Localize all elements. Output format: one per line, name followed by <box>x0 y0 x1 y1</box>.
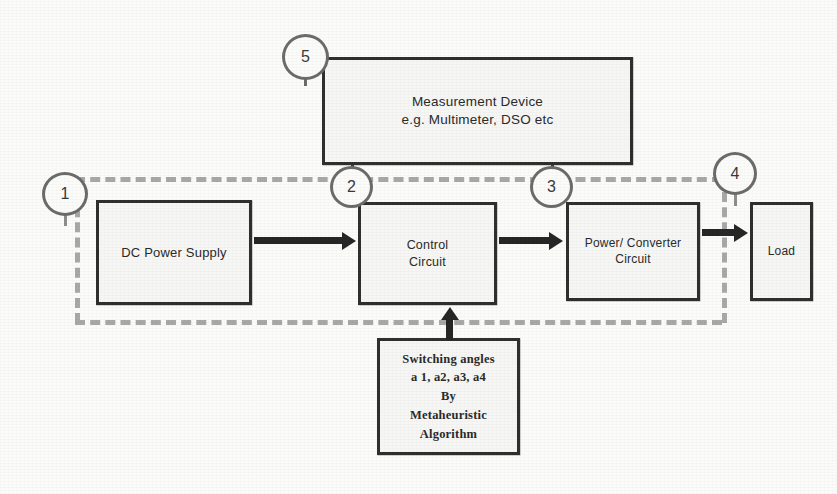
switching-angles-label-line3: By <box>441 389 456 403</box>
marker-circle-5-label: 5 <box>301 48 310 66</box>
arrow-power-to-load <box>702 229 736 236</box>
power-converter-circuit-block: Power/ Converter Circuit <box>566 202 700 301</box>
control-circuit-label-line1: Control <box>407 238 449 252</box>
switching-angles-label-line1: Switching angles <box>402 352 494 366</box>
switching-angles-label-line5: Algorithm <box>420 427 477 441</box>
power-converter-label-line2: Circuit <box>615 252 650 266</box>
marker-circle-1: 1 <box>42 172 88 216</box>
measurement-boundary-top <box>75 177 722 182</box>
marker-circle-4: 4 <box>713 152 757 195</box>
marker-circle-3-label: 3 <box>547 178 556 196</box>
dc-power-supply-label: DC Power Supply <box>121 245 227 260</box>
switching-angles-label-line2: a 1, a2, a3, a4 <box>411 370 486 384</box>
load-label: Load <box>768 244 796 258</box>
switching-angles-block: Switching angles a 1, a2, a3, a4 By Meta… <box>377 338 520 455</box>
measurement-device-block: Measurement Device e.g. Multimeter, DSO … <box>322 57 633 165</box>
dc-power-supply-block: DC Power Supply <box>96 200 252 305</box>
power-converter-label-line1: Power/ Converter <box>585 236 682 250</box>
measurement-boundary-bottom <box>75 320 722 325</box>
marker-circle-3: 3 <box>530 166 573 208</box>
marker-circle-1-label: 1 <box>61 185 70 203</box>
measurement-device-label-line1: Measurement Device <box>412 94 543 109</box>
arrow-control-to-power <box>499 237 551 244</box>
switching-angles-label-line4: Metaheuristic <box>410 408 487 422</box>
marker-circle-4-label: 4 <box>731 165 740 183</box>
load-block: Load <box>750 202 813 301</box>
marker-circle-5: 5 <box>282 34 329 80</box>
measurement-boundary-right <box>722 177 727 323</box>
control-circuit-label-line2: Circuit <box>409 255 446 269</box>
arrow-dc-to-control <box>254 237 344 244</box>
marker-circle-2: 2 <box>330 166 373 208</box>
diagram-canvas: Measurement Device e.g. Multimeter, DSO … <box>0 0 837 494</box>
control-circuit-block: Control Circuit <box>358 202 497 305</box>
marker-circle-2-label: 2 <box>347 178 356 196</box>
arrow-switching-angles-to-control <box>446 318 453 340</box>
measurement-device-label-line2: e.g. Multimeter, DSO etc <box>402 112 554 127</box>
